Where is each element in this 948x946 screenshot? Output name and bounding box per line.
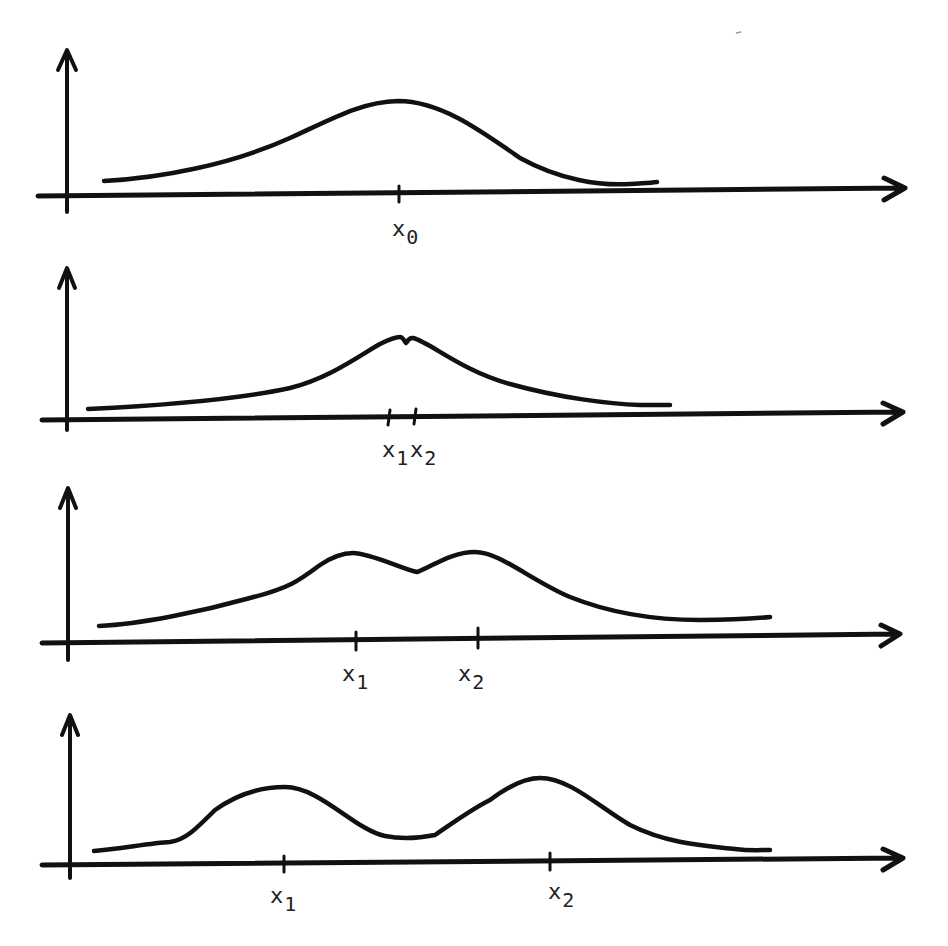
x-axis-arrow	[42, 625, 900, 646]
x-axis-arrow	[42, 849, 903, 870]
diagram-canvas	[0, 0, 948, 946]
label-p2-x1: x1	[382, 439, 408, 468]
label-p3-x2: x2	[458, 663, 484, 692]
gaussian-curve	[104, 101, 657, 184]
label-subscript: 2	[424, 446, 436, 470]
x-axis-arrow	[38, 178, 905, 200]
tick-x1	[388, 410, 390, 425]
label-base: x	[458, 661, 471, 686]
label-subscript: 2	[562, 888, 574, 912]
y-axis-arrow	[62, 715, 78, 878]
label-base: x	[548, 879, 561, 904]
label-x0: x0	[392, 218, 418, 247]
stray-mark	[736, 32, 741, 33]
label-subscript: 1	[356, 670, 368, 694]
y-axis-arrow	[60, 488, 76, 660]
label-p4-x1: x1	[270, 885, 296, 914]
label-base: x	[342, 661, 355, 686]
label-subscript: 1	[396, 446, 408, 470]
x-axis-arrow	[42, 403, 903, 424]
y-axis-arrow	[58, 50, 76, 212]
panel-2	[42, 268, 903, 430]
label-base: x	[382, 437, 395, 462]
resolved-peaks-curve	[94, 778, 770, 851]
panel-4	[42, 715, 903, 878]
label-base: x	[270, 883, 283, 908]
panel-3	[42, 488, 900, 660]
partially-resolved-peaks-curve	[99, 552, 770, 626]
tick-x2	[414, 409, 416, 424]
label-p2-x2: x2	[410, 439, 436, 468]
label-base: x	[392, 216, 405, 241]
label-p4-x2: x2	[548, 881, 574, 910]
label-base: x	[410, 437, 423, 462]
panel-1	[38, 50, 905, 212]
y-axis-arrow	[59, 268, 75, 430]
label-subscript: 1	[284, 892, 296, 916]
label-p3-x1: x1	[342, 663, 368, 692]
overlapping-peaks-curve	[88, 337, 670, 409]
label-subscript: 0	[406, 225, 418, 249]
label-subscript: 2	[472, 670, 484, 694]
